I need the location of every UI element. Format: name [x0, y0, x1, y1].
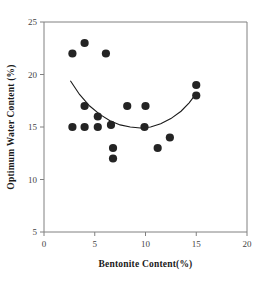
data-point	[192, 81, 200, 89]
x-tick-labels: 0 5 10 15 20	[42, 239, 252, 249]
trend-curve	[70, 81, 196, 128]
data-point	[109, 154, 117, 162]
x-axis-ticks	[44, 232, 247, 236]
data-point	[68, 123, 76, 131]
data-point	[102, 49, 110, 57]
data-point	[140, 123, 148, 131]
data-point	[94, 112, 102, 120]
y-axis-ticks	[40, 22, 44, 232]
data-point	[81, 39, 89, 47]
x-tick-label-3: 15	[192, 239, 202, 249]
scatter-plot: 5 10 15 20 25 0 5 10 15 20 Bentonite Con…	[0, 0, 271, 282]
data-point	[81, 123, 89, 131]
chart-container: 5 10 15 20 25 0 5 10 15 20 Bentonite Con…	[0, 0, 271, 282]
data-point	[154, 144, 162, 152]
y-tick-label-4: 25	[28, 17, 38, 27]
y-axis-title: Optimum Water Content (%)	[6, 64, 17, 189]
data-point	[166, 133, 174, 141]
x-tick-label-0: 0	[42, 239, 47, 249]
y-tick-labels: 5 10 15 20 25	[28, 17, 38, 237]
x-tick-label-4: 20	[243, 239, 253, 249]
data-point	[192, 91, 200, 99]
data-point	[141, 102, 149, 110]
y-tick-label-0: 5	[33, 227, 38, 237]
data-point	[107, 121, 115, 129]
data-point	[123, 102, 131, 110]
data-point	[68, 49, 76, 57]
y-tick-label-2: 15	[28, 122, 38, 132]
data-point	[81, 102, 89, 110]
y-tick-label-1: 10	[28, 175, 38, 185]
data-point	[109, 144, 117, 152]
x-tick-label-1: 5	[93, 239, 98, 249]
data-point	[94, 123, 102, 131]
data-points-group	[68, 39, 200, 163]
x-axis-title: Bentonite Content(%)	[99, 259, 193, 270]
y-tick-label-3: 20	[28, 70, 38, 80]
x-tick-label-2: 10	[141, 239, 151, 249]
